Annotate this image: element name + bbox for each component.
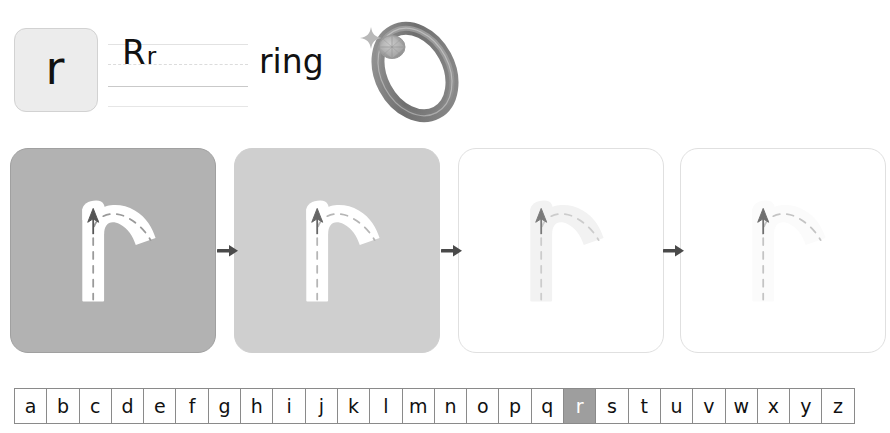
guide-lowercase: r — [147, 43, 156, 69]
guide-line-descender — [108, 106, 248, 107]
alphabet-cell-p[interactable]: p — [499, 388, 531, 424]
alphabet-cell-f[interactable]: f — [176, 388, 208, 424]
alphabet-cell-i[interactable]: i — [273, 388, 305, 424]
handwriting-guide: Rr — [108, 36, 248, 98]
alphabet-cell-y[interactable]: y — [790, 388, 822, 424]
alphabet-cell-x[interactable]: x — [758, 388, 790, 424]
alphabet-cell-z[interactable]: z — [822, 388, 854, 424]
alphabet-cell-label: q — [541, 395, 553, 417]
alphabet-cell-label: z — [833, 395, 843, 417]
practice-card-4[interactable] — [680, 148, 886, 353]
alphabet-cell-label: d — [122, 395, 134, 417]
alphabet-cell-h[interactable]: h — [241, 388, 273, 424]
practice-card-1[interactable] — [10, 148, 216, 353]
alphabet-cell-label: c — [90, 395, 100, 417]
alphabet-cell-label: f — [189, 395, 196, 417]
practice-card-row — [0, 148, 890, 363]
header-row: r Rr ring — [0, 0, 890, 140]
alphabet-cell-q[interactable]: q — [532, 388, 564, 424]
example-word: ring — [259, 42, 324, 81]
alphabet-cell-label: w — [733, 395, 749, 417]
ring-illustration — [358, 14, 464, 124]
alphabet-cell-w[interactable]: w — [726, 388, 758, 424]
alphabet-strip: abcdefghijklmnopqrstuvwxyz — [14, 388, 855, 424]
practice-card-2[interactable] — [234, 148, 440, 353]
alphabet-cell-label: s — [607, 395, 617, 417]
alphabet-cell-label: l — [383, 395, 388, 417]
alphabet-cell-label: i — [286, 395, 291, 417]
alphabet-cell-c[interactable]: c — [80, 388, 112, 424]
arrow-1 — [216, 240, 240, 262]
alphabet-cell-label: g — [218, 395, 230, 417]
alphabet-cell-k[interactable]: k — [338, 388, 370, 424]
alphabet-cell-s[interactable]: s — [596, 388, 628, 424]
alphabet-cell-label: e — [154, 395, 166, 417]
alphabet-cell-label: h — [251, 395, 263, 417]
alphabet-cell-d[interactable]: d — [112, 388, 144, 424]
alphabet-cell-label: p — [509, 395, 521, 417]
alphabet-cell-j[interactable]: j — [306, 388, 338, 424]
alphabet-cell-t[interactable]: t — [629, 388, 661, 424]
alphabet-cell-label: v — [703, 395, 714, 417]
letter-tile[interactable]: r — [14, 28, 98, 112]
arrow-2 — [440, 240, 464, 262]
letter-tile-glyph: r — [46, 45, 65, 91]
alphabet-cell-label: u — [671, 395, 683, 417]
alphabet-cell-v[interactable]: v — [693, 388, 725, 424]
alphabet-cell-l[interactable]: l — [370, 388, 402, 424]
alphabet-cell-label: j — [319, 395, 324, 417]
alphabet-cell-label: y — [800, 395, 811, 417]
alphabet-cell-o[interactable]: o — [467, 388, 499, 424]
alphabet-cell-e[interactable]: e — [144, 388, 176, 424]
alphabet-cell-label: t — [641, 395, 648, 417]
alphabet-cell-label: x — [768, 395, 779, 417]
guide-line-baseline — [108, 86, 248, 87]
alphabet-cell-label: b — [57, 395, 69, 417]
alphabet-cell-label: o — [477, 395, 489, 417]
arrow-3 — [662, 240, 686, 262]
practice-card-3[interactable] — [458, 148, 664, 353]
alphabet-cell-label: n — [444, 395, 456, 417]
alphabet-cell-label: a — [25, 395, 37, 417]
alphabet-cell-u[interactable]: u — [661, 388, 693, 424]
alphabet-cell-a[interactable]: a — [15, 388, 47, 424]
alphabet-cell-m[interactable]: m — [403, 388, 435, 424]
guide-uppercase: R — [122, 32, 146, 72]
alphabet-cell-label: k — [348, 395, 359, 417]
alphabet-cell-n[interactable]: n — [435, 388, 467, 424]
alphabet-cell-label: m — [409, 395, 428, 417]
alphabet-cell-g[interactable]: g — [209, 388, 241, 424]
alphabet-cell-label: r — [576, 395, 584, 417]
alphabet-cell-b[interactable]: b — [47, 388, 79, 424]
guide-letter-pair: Rr — [122, 32, 155, 72]
alphabet-cell-r[interactable]: r — [564, 388, 596, 424]
